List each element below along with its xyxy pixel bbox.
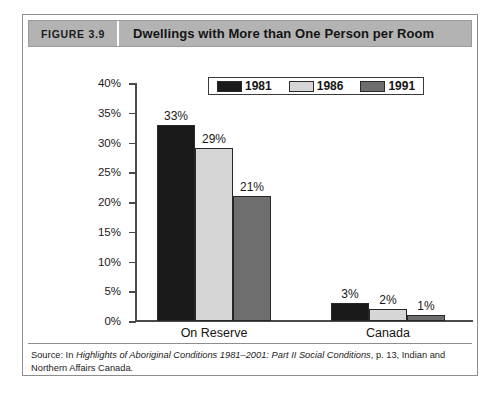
bar-value-label: 21% — [227, 180, 277, 194]
chart-plot-region: 1981 1986 1991 0%5%10%15%20%25%30%35%40%… — [28, 51, 472, 337]
bar-canada-1991 — [407, 315, 445, 321]
y-axis-tick-label: 40% — [61, 77, 121, 89]
y-axis-tick-label: 35% — [61, 107, 121, 119]
bars-layer: 33%29%21%3%2%1% — [135, 83, 473, 321]
y-axis-tick-label: 0% — [61, 315, 121, 327]
y-axis-tick-label: 30% — [61, 137, 121, 149]
bar-value-label: 1% — [401, 299, 451, 313]
y-axis-tick-label: 20% — [61, 196, 121, 208]
figure-number: FIGURE 3.9 — [29, 28, 117, 40]
bar-on-reserve-1981 — [157, 125, 195, 321]
y-axis-tick-label: 15% — [61, 226, 121, 238]
source-note: Source: In Highlights of Aboriginal Cond… — [31, 349, 467, 376]
source-prefix: Source: In — [31, 350, 76, 360]
category-label: Canada — [311, 326, 465, 340]
figure-title: Dwellings with More than One Person per … — [119, 26, 471, 41]
figure-container: FIGURE 3.9 Dwellings with More than One … — [22, 14, 478, 376]
y-axis-tick-label: 25% — [61, 166, 121, 178]
bar-value-label: 33% — [151, 109, 201, 123]
bar-on-reserve-1986 — [195, 148, 233, 321]
source-italic-title: Highlights of Aboriginal Conditions 1981… — [76, 350, 371, 360]
source-divider — [28, 343, 472, 344]
bar-on-reserve-1991 — [233, 196, 271, 321]
figure-header: FIGURE 3.9 Dwellings with More than One … — [28, 20, 472, 47]
y-axis-tick-label: 5% — [61, 285, 121, 297]
y-axis-tick-label: 10% — [61, 256, 121, 268]
category-label: On Reserve — [137, 326, 291, 340]
bar-value-label: 29% — [189, 132, 239, 146]
y-axis-tick — [129, 321, 136, 323]
